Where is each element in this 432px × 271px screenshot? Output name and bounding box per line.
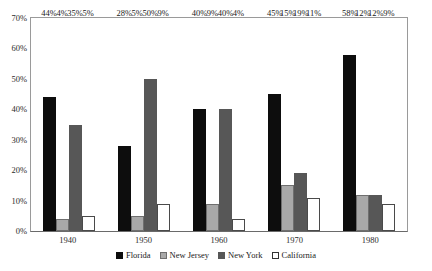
bar-rect: 58% bbox=[343, 55, 356, 231]
x-axis-label: 1960 bbox=[181, 236, 257, 245]
bar-value-label: 35% bbox=[67, 9, 83, 18]
x-axis-label: 1980 bbox=[332, 236, 408, 245]
bar-newyork-1950: 50% bbox=[144, 18, 157, 231]
bar-newyork-1940: 35% bbox=[69, 18, 82, 231]
bar-value-label: 44% bbox=[41, 9, 57, 18]
bar-value-label: 5% bbox=[82, 9, 93, 18]
bar-value-label: 11% bbox=[306, 9, 321, 18]
y-axis-tick: 60% bbox=[11, 44, 27, 53]
bar-group: 44%4%35%5% bbox=[31, 18, 106, 231]
bar-value-label: 9% bbox=[383, 9, 394, 18]
legend-item-new-jersey: New Jersey bbox=[160, 251, 209, 260]
bar-rect: 40% bbox=[219, 109, 232, 231]
bar-value-label: 12% bbox=[368, 9, 384, 18]
bar-florida-1970: 45% bbox=[268, 18, 281, 231]
bar-rect: 15% bbox=[281, 185, 294, 231]
bar-value-label: 5% bbox=[132, 9, 143, 18]
bar-value-label: 40% bbox=[218, 9, 234, 18]
bar-newyork-1970: 19% bbox=[294, 18, 307, 231]
bar-rect: 40% bbox=[193, 109, 206, 231]
legend-item-new-york: New York bbox=[218, 251, 262, 260]
bar-group: 40%9%40%4% bbox=[181, 18, 256, 231]
legend-swatch-new-york bbox=[218, 252, 225, 259]
y-axis-tick: 20% bbox=[11, 166, 27, 175]
bar-newjersey-1970: 15% bbox=[281, 18, 294, 231]
legend-swatch-florida bbox=[116, 252, 123, 259]
bar-rect: 28% bbox=[118, 146, 131, 231]
bar-california-1960: 4% bbox=[232, 18, 245, 231]
legend-label-new-york: New York bbox=[228, 251, 262, 260]
bar-rect: 50% bbox=[144, 79, 157, 231]
bar-value-label: 4% bbox=[233, 9, 244, 18]
bar-rect: 12% bbox=[356, 195, 369, 232]
bar-newyork-1980: 12% bbox=[369, 18, 382, 231]
bar-florida-1950: 28% bbox=[118, 18, 131, 231]
x-axis-label: 1940 bbox=[30, 236, 106, 245]
bar-rect: 4% bbox=[232, 219, 245, 231]
bar-rect: 35% bbox=[69, 125, 82, 232]
legend-item-california: California bbox=[272, 251, 316, 260]
bar-newjersey-1950: 5% bbox=[131, 18, 144, 231]
bar-rect: 4% bbox=[56, 219, 69, 231]
plot-area: 0% 10% 20% 30% 40% 50% 60% 70% 44%4%35%5… bbox=[30, 17, 408, 232]
x-axis-label: 1950 bbox=[106, 236, 182, 245]
legend-label-florida: Florida bbox=[126, 251, 151, 260]
y-axis-tick: 50% bbox=[11, 75, 27, 84]
bar-rect: 9% bbox=[382, 204, 395, 231]
bar-california-1980: 9% bbox=[382, 18, 395, 231]
bar-rect: 9% bbox=[206, 204, 219, 231]
bar-value-label: 40% bbox=[192, 9, 208, 18]
y-axis-tick: 10% bbox=[11, 196, 27, 205]
bar-newjersey-1940: 4% bbox=[56, 18, 69, 231]
legend-swatch-new-jersey bbox=[160, 252, 167, 259]
bar-rect: 5% bbox=[131, 216, 144, 231]
bar-florida-1980: 58% bbox=[343, 18, 356, 231]
bar-value-label: 4% bbox=[56, 9, 67, 18]
y-axis-tick: 0% bbox=[16, 227, 27, 236]
bar-group: 45%15%19%11% bbox=[257, 18, 332, 231]
bar-california-1940: 5% bbox=[82, 18, 95, 231]
x-axis-label: 1970 bbox=[257, 236, 333, 245]
bar-florida-1940: 44% bbox=[43, 18, 56, 231]
bar-value-label: 9% bbox=[158, 9, 169, 18]
y-axis-tick: 40% bbox=[11, 105, 27, 114]
bar-california-1950: 9% bbox=[157, 18, 170, 231]
bar-rect: 12% bbox=[369, 195, 382, 232]
legend-item-florida: Florida bbox=[116, 251, 151, 260]
bar-rect: 5% bbox=[82, 216, 95, 231]
bar-group: 58%12%12%9% bbox=[332, 18, 407, 231]
bar-value-label: 50% bbox=[142, 9, 158, 18]
y-axis-tick: 30% bbox=[11, 135, 27, 144]
bar-newjersey-1960: 9% bbox=[206, 18, 219, 231]
bar-rect: 45% bbox=[268, 94, 281, 231]
legend-label-new-jersey: New Jersey bbox=[170, 251, 209, 260]
bar-rect: 9% bbox=[157, 204, 170, 231]
bar-rect: 44% bbox=[43, 97, 56, 231]
bar-group: 28%5%50%9% bbox=[106, 18, 181, 231]
bar-value-label: 9% bbox=[207, 9, 218, 18]
legend-swatch-california bbox=[272, 252, 279, 259]
y-axis-tick: 70% bbox=[11, 14, 27, 23]
bar-florida-1960: 40% bbox=[193, 18, 206, 231]
bar-rect: 19% bbox=[294, 173, 307, 231]
bar-california-1970: 11% bbox=[307, 18, 320, 231]
bar-newjersey-1980: 12% bbox=[356, 18, 369, 231]
bar-newyork-1960: 40% bbox=[219, 18, 232, 231]
bar-rect: 11% bbox=[307, 198, 320, 231]
chart-legend: Florida New Jersey New York California bbox=[0, 251, 432, 260]
bar-chart: 0% 10% 20% 30% 40% 50% 60% 70% 44%4%35%5… bbox=[0, 0, 432, 271]
bar-value-label: 28% bbox=[116, 9, 132, 18]
legend-label-california: California bbox=[282, 251, 316, 260]
